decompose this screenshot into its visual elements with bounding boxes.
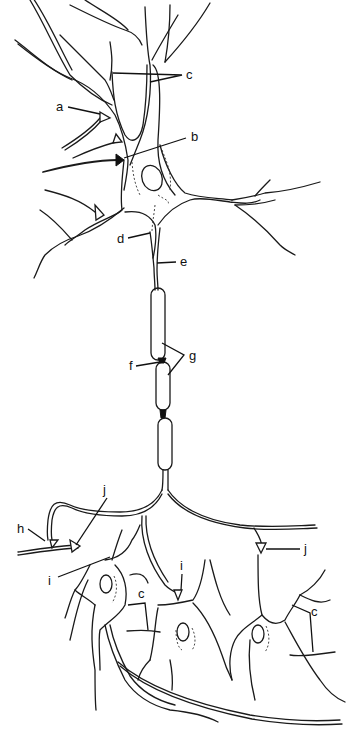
nucleus (177, 623, 189, 641)
label-g: g (189, 348, 196, 363)
nucleus (252, 625, 264, 643)
label-c-top: c (186, 67, 193, 82)
leader-i-left (58, 557, 110, 577)
axon-hillock (150, 232, 155, 290)
leader-b (124, 138, 186, 158)
label-c-bottom-right: c (311, 604, 318, 619)
label-f: f (129, 358, 133, 373)
leader-c-bottom-right (292, 605, 313, 652)
label-d: d (117, 231, 124, 246)
leader-e (157, 262, 176, 263)
label-j-right: j (303, 541, 307, 556)
label-b: b (191, 129, 198, 144)
label-h: h (17, 521, 24, 536)
lower-neuron-middle (127, 560, 232, 690)
nucleus (100, 575, 112, 593)
label-i-middle: i (180, 558, 183, 573)
axon-terminals (18, 490, 317, 600)
myelin-sheath (156, 362, 170, 410)
nucleus (138, 162, 166, 193)
label-e: e (180, 254, 187, 269)
synaptic-terminal (100, 112, 110, 122)
lower-neuron-left (65, 525, 218, 722)
leader-c-bottom-left (128, 603, 148, 630)
neuron-diagram: c a b d e f g j h j i i c (0, 0, 349, 736)
leader-i-middle (181, 574, 182, 590)
label-a: a (56, 99, 64, 114)
labels: c a b d e f g j h j i i c (17, 67, 318, 652)
apical-dendrite (130, 7, 151, 165)
myelin-sheath (151, 288, 165, 360)
leader-j-top (76, 498, 107, 545)
label-j-top: j (102, 482, 106, 497)
leader-h (28, 529, 45, 541)
lower-neuron-right (118, 555, 345, 725)
soma (65, 160, 124, 245)
axon (151, 288, 172, 490)
leader-d (128, 233, 150, 238)
label-i-left: i (48, 573, 51, 588)
synaptic-terminal-filled (116, 154, 124, 166)
upper-neuron (15, 0, 320, 290)
myelin-sheath (158, 418, 172, 470)
leader-a (68, 107, 100, 114)
label-c-bottom-left: c (138, 586, 145, 601)
